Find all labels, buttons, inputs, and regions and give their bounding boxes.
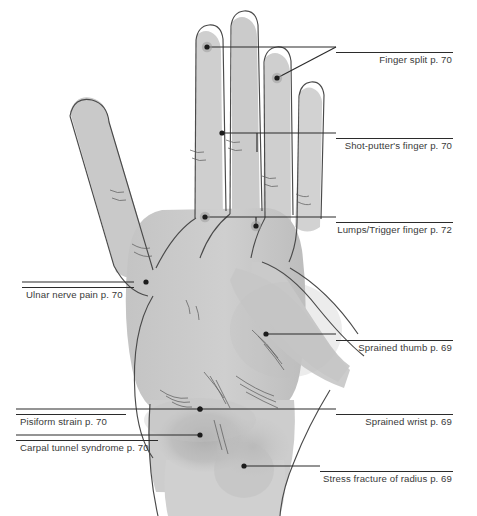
marker-lumps-trigger-finger <box>202 214 207 219</box>
callout-label-lumps-trigger-finger: Lumps/Trigger finger p. 72 <box>337 224 452 236</box>
callout-rule-carpal-tunnel-syndrome <box>16 440 158 441</box>
marker-sprained-thumb <box>263 331 268 336</box>
marker-carpal-tunnel-syndrome <box>197 432 202 437</box>
marker-ulnar-nerve-pain <box>143 279 148 284</box>
marker-stress-fracture-of-radius <box>241 463 246 468</box>
marker2-finger-split <box>274 75 279 80</box>
callout-rule-shot-putters-finger <box>336 138 453 139</box>
callout-label-stress-fracture-of-radius: Stress fracture of radius p. 69 <box>323 473 452 485</box>
callout-label-pisiform-strain: Pisiform strain p. 70 <box>20 416 107 428</box>
callout-rule-finger-split <box>336 52 453 53</box>
callout-label-shot-putters-finger: Shot-putter's finger p. 70 <box>345 140 452 152</box>
callout-rule-ulnar-nerve-pain <box>22 287 134 288</box>
callout-label-ulnar-nerve-pain: Ulnar nerve pain p. 70 <box>26 289 123 301</box>
callout-rule-lumps-trigger-finger <box>336 222 453 223</box>
marker-pisiform-strain <box>197 406 202 411</box>
hand-illustration <box>0 0 477 516</box>
callout-label-carpal-tunnel-syndrome: Carpal tunnel syndrome p. 70 <box>20 442 149 454</box>
callout-rule-pisiform-strain <box>16 414 126 415</box>
hand-injury-figure: Finger split p. 70Shot-putter's finger p… <box>0 0 477 516</box>
callout-rule-sprained-thumb <box>336 340 453 341</box>
callout-label-sprained-wrist: Sprained wrist p. 69 <box>365 416 452 428</box>
callout-rule-sprained-wrist <box>336 414 453 415</box>
marker2-lumps-trigger-finger <box>253 223 258 228</box>
marker-finger-split <box>204 44 209 49</box>
marker-shot-putters-finger <box>219 130 224 135</box>
callout-label-finger-split: Finger split p. 70 <box>379 54 452 66</box>
callout-rule-stress-fracture-of-radius <box>320 471 453 472</box>
callout-label-sprained-thumb: Sprained thumb p. 69 <box>358 342 452 354</box>
